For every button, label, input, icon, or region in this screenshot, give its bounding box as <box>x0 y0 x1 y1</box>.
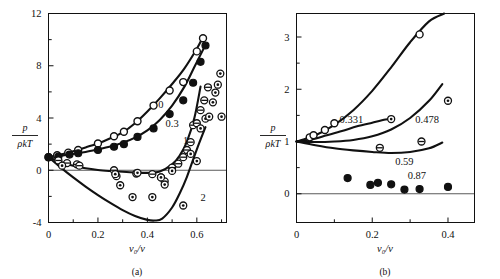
curve-label-0.59: 0.59 <box>395 156 413 167</box>
curve-label-1: 1 <box>183 135 188 146</box>
data-point-2-dot <box>136 172 139 175</box>
data-point-0.87 <box>401 186 408 193</box>
panel-b-svg: 0.3310.4780.590.87 00.20.4 0123 p ρkT v₀… <box>250 0 500 279</box>
data-point-0 <box>180 79 187 86</box>
y-axis-denominator-b: ρkT <box>265 138 282 149</box>
panel-a: 00.312 00.20.40.6 -404812 p ρkT v₀/v (a) <box>0 0 250 279</box>
data-point-2-dot <box>189 153 192 156</box>
data-point-0.331 <box>416 31 423 38</box>
y-tick-label: 12 <box>31 8 42 19</box>
x-tick-label: 0.4 <box>141 229 155 240</box>
data-point-2-dot <box>220 115 223 118</box>
y-tick-label: 0 <box>284 188 289 199</box>
curve-label-0: 0 <box>158 99 163 110</box>
y-tick-label: 8 <box>36 60 41 71</box>
data-point-0.3 <box>134 133 141 140</box>
y-tick-label: 1 <box>284 136 289 147</box>
curve-labels-b: 0.3310.4780.590.87 <box>340 114 439 181</box>
curve-label-0.478: 0.478 <box>415 114 439 125</box>
panel-b: 0.3310.4780.590.87 00.20.4 0123 p ρkT v₀… <box>250 0 500 279</box>
y-tick-label: 3 <box>284 32 289 43</box>
x-tick-label: 0 <box>46 229 51 240</box>
data-point-0.331 <box>310 132 317 139</box>
curve-label-0.3: 0.3 <box>166 118 179 129</box>
x-tick-labels-b: 00.20.4 <box>294 229 455 240</box>
data-point-2-dot <box>199 127 202 130</box>
y-tick-label: 4 <box>36 113 42 124</box>
data-point-0 <box>150 102 157 109</box>
data-point-0 <box>166 87 173 94</box>
panel-caption-b: (b) <box>379 267 390 278</box>
data-point-0.3 <box>75 150 82 157</box>
data-point-0.3 <box>180 97 187 104</box>
y-tick-labels-b: 0123 <box>284 32 289 200</box>
data-point-0.3 <box>166 111 173 118</box>
x-tick-labels-a: 00.20.40.6 <box>46 229 204 240</box>
curve-label-2: 2 <box>200 192 205 203</box>
data-point-0.3 <box>111 143 118 150</box>
data-point-0.87 <box>416 186 423 193</box>
x-tick-label: 0 <box>294 229 299 240</box>
panel-a-svg: 00.312 00.20.40.6 -404812 p ρkT v₀/v (a) <box>0 0 250 279</box>
data-point-0.87 <box>444 183 451 190</box>
data-point-0.87 <box>367 181 374 188</box>
data-point-0.87 <box>344 175 351 182</box>
data-point-2-dot <box>208 115 211 118</box>
curve-0 <box>49 37 204 157</box>
data-point-0 <box>200 35 207 42</box>
x-tick-label: 0.2 <box>366 229 379 240</box>
panel-caption-a: (a) <box>132 267 143 278</box>
axis-ticks-b <box>297 37 448 222</box>
data-point-0.3 <box>120 141 127 148</box>
y-axis-title-b: p ρkT <box>260 122 286 149</box>
data-point-2-dot <box>216 83 219 86</box>
panel-b-plot: 0.3310.4780.590.87 00.20.4 0123 <box>284 14 474 240</box>
x-tick-label: 0.4 <box>441 229 455 240</box>
data-point-0 <box>193 48 200 55</box>
figure-container: 00.312 00.20.40.6 -404812 p ρkT v₀/v (a)… <box>0 0 500 279</box>
x-tick-label: 0.6 <box>190 229 203 240</box>
x-axis-title-b: v₀/v <box>377 243 393 254</box>
data-point-0.3 <box>45 154 52 161</box>
data-point-0.478-dot <box>447 99 450 102</box>
markers-b <box>306 31 451 193</box>
data-point-2-dot <box>182 204 185 207</box>
x-tick-label: 0.2 <box>91 229 104 240</box>
x-axis-title-a: v₀/v <box>129 243 145 254</box>
data-point-2-dot <box>195 160 198 163</box>
y-axis-numerator-b: p <box>270 122 276 133</box>
curve-label-0.87: 0.87 <box>408 170 426 181</box>
data-point-0.87 <box>388 181 395 188</box>
data-point-0.331 <box>331 120 338 127</box>
data-point-0.87 <box>374 179 381 186</box>
data-point-2-dot <box>214 91 217 94</box>
y-axis-title-a: p ρkT <box>12 122 38 149</box>
plot-frame-b <box>297 14 475 223</box>
y-axis-denominator-a: ρkT <box>17 138 34 149</box>
y-tick-label: 2 <box>284 84 289 95</box>
data-point-2-dot <box>163 183 166 186</box>
data-point-0.3 <box>197 58 204 65</box>
y-tick-labels-a: -404812 <box>31 8 42 228</box>
curve-label-0.331: 0.331 <box>340 114 364 125</box>
data-point-2-dot <box>151 196 154 199</box>
data-point-2-dot <box>131 196 134 199</box>
data-point-0.3 <box>66 151 73 158</box>
curves-a <box>49 37 206 221</box>
panel-a-plot: 00.312 00.20.40.6 -404812 <box>31 8 227 239</box>
data-point-2-dot <box>219 72 222 75</box>
data-point-2-dot <box>119 184 122 187</box>
data-point-2-dot <box>61 164 64 167</box>
data-point-2-dot <box>114 173 117 176</box>
data-point-0.3 <box>94 147 101 154</box>
data-point-0 <box>111 133 118 140</box>
data-point-0 <box>134 118 141 125</box>
y-axis-numerator-a: p <box>22 122 28 133</box>
markers-a <box>45 35 225 209</box>
y-tick-label: -4 <box>33 217 42 228</box>
data-point-2-dot <box>171 170 174 173</box>
data-point-2-dot <box>212 101 215 104</box>
data-point-0 <box>120 128 127 135</box>
data-point-0.3 <box>150 125 157 132</box>
data-point-0.331 <box>321 127 328 134</box>
